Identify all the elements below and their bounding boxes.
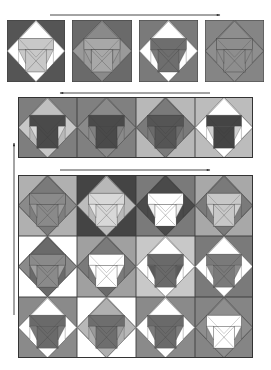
grid-tile-5 (18, 236, 77, 297)
grid-tile-8 (195, 236, 253, 297)
row1-tile-2 (72, 20, 132, 82)
row2-tile-2 (77, 97, 136, 158)
grid-tile-4 (195, 175, 253, 236)
grid-tile-2 (77, 175, 136, 236)
row1-tile-4 (205, 20, 264, 82)
grid-tile-11 (136, 297, 195, 358)
row1-tile-1 (7, 20, 65, 82)
row1-tile-3 (139, 20, 198, 82)
row2-tile-1 (18, 97, 77, 158)
row2-tile-4 (195, 97, 253, 158)
grid-tile-10 (77, 297, 136, 358)
grid-tile-6 (77, 236, 136, 297)
row2-tile-3 (136, 97, 195, 158)
grid-tile-12 (195, 297, 253, 358)
grid-tile-7 (136, 236, 195, 297)
grid-tile-3 (136, 175, 195, 236)
grid-tile-1 (18, 175, 77, 236)
grid-tile-9 (18, 297, 77, 358)
